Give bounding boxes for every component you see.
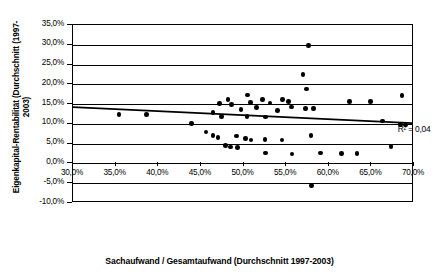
data-point bbox=[211, 133, 216, 138]
data-point bbox=[226, 97, 231, 102]
data-point bbox=[318, 151, 323, 156]
y-axis-tick-label: 25,0% bbox=[42, 58, 64, 67]
data-point bbox=[235, 145, 240, 150]
x-axis-tick-mark bbox=[157, 162, 158, 166]
x-axis-tick-label: 45,0% bbox=[178, 168, 222, 177]
y-axis-tick-mark bbox=[67, 83, 72, 84]
data-point bbox=[217, 101, 222, 106]
x-axis-tick-label: 35,0% bbox=[93, 168, 137, 177]
x-axis-tick-mark bbox=[115, 162, 116, 166]
data-point bbox=[280, 97, 285, 102]
data-point bbox=[117, 112, 122, 117]
x-axis-tick-label: 60,0% bbox=[306, 168, 350, 177]
data-point bbox=[219, 114, 224, 119]
gridline-horizontal bbox=[73, 104, 412, 105]
x-axis-tick-label: 40,0% bbox=[135, 168, 179, 177]
y-axis-tick-label: -10,0% bbox=[39, 197, 64, 206]
data-point bbox=[144, 112, 149, 117]
x-axis-tick-mark bbox=[200, 162, 201, 166]
x-axis-title: Sachaufwand / Gesamtaufwand (Durchschnit… bbox=[0, 256, 439, 266]
data-point bbox=[263, 137, 268, 142]
gridline-horizontal bbox=[73, 84, 412, 85]
gridline-horizontal bbox=[73, 144, 412, 145]
x-axis-tick-mark bbox=[72, 162, 73, 166]
data-point bbox=[248, 100, 253, 105]
data-point bbox=[275, 108, 280, 113]
x-axis-tick-label: 65,0% bbox=[348, 168, 392, 177]
data-point bbox=[389, 144, 394, 149]
data-point bbox=[368, 99, 373, 104]
y-axis-tick-label: -5,0% bbox=[44, 177, 64, 186]
y-axis-tick-mark bbox=[67, 44, 72, 45]
data-point bbox=[254, 105, 259, 110]
data-point bbox=[286, 99, 291, 104]
gridline-horizontal bbox=[73, 45, 412, 46]
y-axis-tick-mark bbox=[67, 103, 72, 104]
y-axis-tick-mark bbox=[67, 64, 72, 65]
scatter-chart-figure: Eigenkapital-Rentabilität (Durchschnitt … bbox=[0, 0, 439, 276]
data-point bbox=[309, 133, 314, 138]
data-point bbox=[306, 43, 311, 48]
y-axis-tick-label: 10,0% bbox=[42, 117, 64, 126]
x-axis-tick-mark bbox=[370, 162, 371, 166]
x-axis-tick-label: 50,0% bbox=[221, 168, 265, 177]
y-axis-tick-label: 20,0% bbox=[42, 78, 64, 87]
data-point bbox=[243, 136, 248, 141]
gridline-horizontal bbox=[73, 124, 412, 125]
y-axis-tick-mark bbox=[67, 24, 72, 25]
gridline-horizontal bbox=[73, 65, 412, 66]
data-point bbox=[347, 99, 352, 104]
y-axis-tick-mark bbox=[67, 123, 72, 124]
y-axis-tick-label: 0,0% bbox=[46, 157, 64, 166]
data-point bbox=[245, 114, 250, 119]
gridline-horizontal bbox=[73, 183, 412, 184]
y-axis-tick-mark bbox=[67, 143, 72, 144]
data-point bbox=[223, 143, 228, 148]
y-axis-tick-label: 15,0% bbox=[42, 98, 64, 107]
data-point bbox=[380, 119, 385, 124]
data-point bbox=[303, 106, 308, 111]
x-axis-tick-label: 70,0% bbox=[391, 168, 435, 177]
data-point bbox=[229, 102, 234, 107]
x-axis-tick-label: 30,0% bbox=[50, 168, 94, 177]
data-point bbox=[260, 97, 265, 102]
x-axis-tick-mark bbox=[413, 162, 414, 166]
data-point bbox=[400, 93, 405, 98]
data-point bbox=[289, 105, 294, 110]
r-squared-annotation: R² = 0,04 bbox=[398, 124, 431, 134]
y-axis-tick-label: 5,0% bbox=[46, 137, 64, 146]
data-point bbox=[309, 183, 314, 188]
data-point bbox=[189, 121, 194, 126]
x-axis-tick-mark bbox=[285, 162, 286, 166]
data-point bbox=[228, 145, 233, 150]
data-point bbox=[355, 151, 360, 156]
x-axis-tick-mark bbox=[328, 162, 329, 166]
data-point bbox=[211, 110, 216, 115]
y-axis-tick-label: 30,0% bbox=[42, 38, 64, 47]
y-axis-tick-mark bbox=[67, 182, 72, 183]
data-point bbox=[311, 106, 316, 111]
x-axis-tick-label: 55,0% bbox=[263, 168, 307, 177]
data-point bbox=[239, 107, 244, 112]
y-axis-tick-label: 35,0% bbox=[42, 19, 64, 28]
y-axis-title: Eigenkapital-Rentabilität (Durchschnitt … bbox=[11, 12, 31, 202]
y-axis-tick-mark bbox=[67, 202, 72, 203]
data-point bbox=[339, 151, 344, 156]
x-axis-tick-mark bbox=[243, 162, 244, 166]
